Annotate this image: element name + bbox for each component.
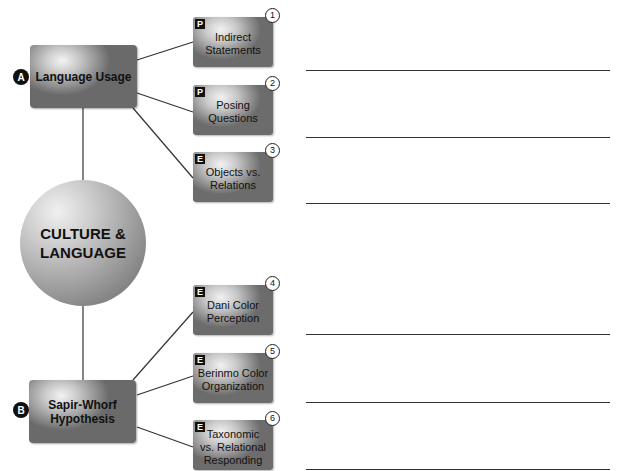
answer-line-5[interactable] <box>306 402 610 403</box>
experiment-tag-icon: E <box>195 355 205 365</box>
number-2-icon: 2 <box>265 76 280 91</box>
answer-line-4[interactable] <box>306 334 610 335</box>
sapir-whorf-node: Sapir-Whorf Hypothesis <box>29 380 136 443</box>
culture-language-sphere: CULTURE & LANGUAGE <box>20 180 146 306</box>
number-1-icon: 1 <box>265 8 280 23</box>
answer-line-2[interactable] <box>306 137 610 138</box>
principle-tag-icon: P <box>195 87 205 97</box>
principle-tag-icon: P <box>195 19 205 29</box>
number-3-icon: 3 <box>265 143 280 158</box>
indirect-statements-node: P 1 Indirect Statements <box>193 17 273 67</box>
berinmo-color-node: E 5 Berinmo Color Organization <box>193 353 273 403</box>
objects-vs-relations-node: E 3 Objects vs. Relations <box>193 152 273 202</box>
dani-color-node: E 4 Dani Color Perception <box>193 285 273 335</box>
indirect-statements-label: Indirect Statements <box>205 31 261 57</box>
branch-a-badge: A <box>13 69 29 85</box>
answer-line-6[interactable] <box>306 469 610 470</box>
posing-questions-label: Posing Questions <box>208 99 258 125</box>
answer-line-1[interactable] <box>306 70 610 71</box>
language-usage-label: Language Usage <box>35 70 131 84</box>
objects-vs-relations-label: Objects vs. Relations <box>206 166 260 192</box>
dani-color-label: Dani Color Perception <box>207 299 260 325</box>
taxonomic-relational-label: Taxonomic vs. Relational Responding <box>200 428 266 467</box>
taxonomic-relational-node: E 6 Taxonomic vs. Relational Responding <box>193 420 273 470</box>
sapir-whorf-label: Sapir-Whorf Hypothesis <box>48 398 117 426</box>
number-5-icon: 5 <box>265 344 280 359</box>
center-label: CULTURE & LANGUAGE <box>40 224 126 262</box>
branch-b-badge: B <box>13 402 29 418</box>
berinmo-color-label: Berinmo Color Organization <box>198 367 268 393</box>
experiment-tag-icon: E <box>195 422 205 432</box>
number-4-icon: 4 <box>265 276 280 291</box>
number-6-icon: 6 <box>265 411 280 426</box>
answer-line-3[interactable] <box>306 203 610 204</box>
experiment-tag-icon: E <box>195 154 205 164</box>
experiment-tag-icon: E <box>195 287 205 297</box>
posing-questions-node: P 2 Posing Questions <box>193 85 273 135</box>
language-usage-node: Language Usage <box>30 45 137 108</box>
